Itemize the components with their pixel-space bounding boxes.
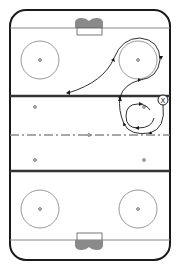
neutral-dot: [34, 106, 37, 109]
player-marker-x: X: [158, 95, 168, 105]
hockey-rink-diagram: X: [0, 0, 180, 270]
goal-crease-bottom: [77, 233, 102, 240]
neutral-dot: [143, 106, 146, 109]
neutral-dot: [34, 159, 37, 162]
center-dot: [88, 134, 91, 137]
goal-crease-top: [77, 28, 102, 35]
neutral-dot: [143, 159, 146, 162]
svg-text:X: X: [161, 97, 166, 105]
